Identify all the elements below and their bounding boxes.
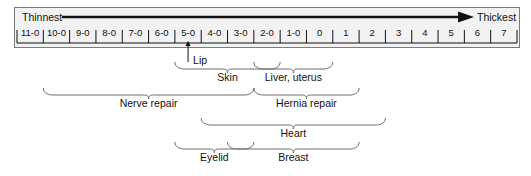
tick-label-0: 0 xyxy=(317,28,322,38)
tick-label-2: 2 xyxy=(370,28,375,38)
tick-label-4-0: 4-0 xyxy=(207,28,221,38)
tick-label-3: 3 xyxy=(396,28,401,38)
tick-label-6-0: 6-0 xyxy=(155,28,169,38)
group-label-nerve-repair: Nerve repair xyxy=(120,98,178,109)
tick-label-11-0: 11-0 xyxy=(21,28,39,38)
tick-label-2-0: 2-0 xyxy=(260,28,274,38)
tick-label-5-0: 5-0 xyxy=(181,28,195,38)
tick-label-4: 4 xyxy=(422,28,427,38)
group-label-heart: Heart xyxy=(280,128,306,139)
group-label-eyelid: Eyelid xyxy=(200,152,229,163)
tick-label-7: 7 xyxy=(501,28,506,38)
tick-label-1-0: 1-0 xyxy=(286,28,300,38)
tick-label-10-0: 10-0 xyxy=(47,28,66,38)
tick-label-1: 1 xyxy=(343,28,348,38)
pointer-label-lip: Lip xyxy=(193,55,207,66)
tick-label-9-0: 9-0 xyxy=(76,28,90,38)
tick-label-6: 6 xyxy=(475,28,480,38)
group-label-skin: Skin xyxy=(217,72,237,83)
tick-label-7-0: 7-0 xyxy=(129,28,143,38)
tick-label-3-0: 3-0 xyxy=(234,28,248,38)
tick-label-5: 5 xyxy=(449,28,454,38)
pointer-arrow-lip xyxy=(185,41,190,62)
group-label-breast: Breast xyxy=(278,152,308,163)
group-label-hernia-repair: Hernia repair xyxy=(276,98,337,109)
group-label-liver-uterus: Liver, uterus xyxy=(265,72,322,83)
tick-label-8-0: 8-0 xyxy=(102,28,116,38)
suture-size-scale-figure: Thinnest Thickest 11-010-09-08-07-06-05-… xyxy=(0,0,531,176)
